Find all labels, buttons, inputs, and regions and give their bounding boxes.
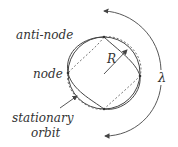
anti-node-label: anti-node: [16, 28, 73, 42]
node-label: node: [33, 67, 63, 81]
stationary-orbit-circle: [68, 37, 140, 109]
node-right: [139, 75, 142, 78]
node-top: [103, 36, 106, 39]
stationary-label: stationary: [12, 111, 74, 125]
stationary-orbit-pointer: [60, 96, 77, 108]
orbit-label: orbit: [31, 126, 60, 140]
radius-label: R: [106, 52, 116, 66]
standing-wave-diagram: anti-node node stationary orbit R λ: [0, 0, 178, 147]
wavelength-arc-lower: [105, 85, 161, 136]
node-bottom: [103, 108, 106, 111]
wavelength-label: λ: [157, 70, 166, 85]
node-left: [67, 72, 70, 75]
